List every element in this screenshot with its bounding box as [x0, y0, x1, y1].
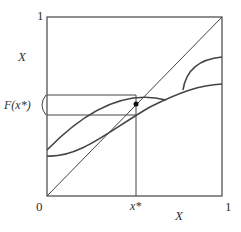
diagonal-line: [47, 17, 222, 196]
x-axis-label: X: [174, 208, 184, 223]
y-max-label: 1: [37, 8, 44, 23]
upper-curve: [47, 97, 166, 150]
fixed-point-diagram: 1 X F(x*) 0 x* X 1: [0, 0, 241, 232]
f-x-star-bracket: [42, 95, 46, 115]
f-x-star-label: F(x*): [3, 98, 31, 112]
origin-label: 0: [36, 199, 43, 214]
y-axis-label: X: [17, 49, 27, 64]
x-max-label: 1: [225, 199, 232, 214]
fixed-point-dot: [134, 102, 139, 107]
x-star-label: x*: [129, 199, 141, 213]
